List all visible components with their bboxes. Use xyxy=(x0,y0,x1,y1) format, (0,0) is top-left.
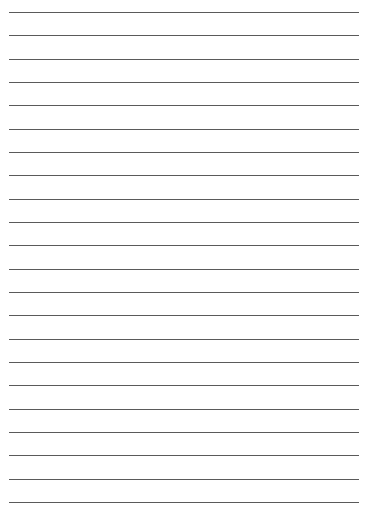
ruled-line xyxy=(9,222,359,223)
ruled-line xyxy=(9,175,359,176)
ruled-line xyxy=(9,82,359,83)
ruled-line xyxy=(9,339,359,340)
ruled-line xyxy=(9,315,359,316)
ruled-line xyxy=(9,105,359,106)
ruled-line xyxy=(9,362,359,363)
ruled-line xyxy=(9,409,359,410)
ruled-line xyxy=(9,59,359,60)
ruled-line xyxy=(9,432,359,433)
ruled-line xyxy=(9,269,359,270)
ruled-line xyxy=(9,502,359,503)
ruled-line xyxy=(9,245,359,246)
lined-paper-page xyxy=(0,0,369,514)
ruled-line xyxy=(9,385,359,386)
ruled-line xyxy=(9,35,359,36)
ruled-line xyxy=(9,455,359,456)
ruled-line xyxy=(9,129,359,130)
ruled-line xyxy=(9,292,359,293)
ruled-line xyxy=(9,152,359,153)
ruled-line xyxy=(9,479,359,480)
ruled-line xyxy=(9,12,359,13)
ruled-line xyxy=(9,199,359,200)
